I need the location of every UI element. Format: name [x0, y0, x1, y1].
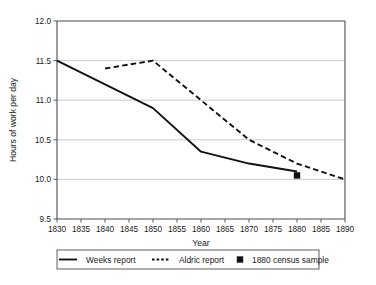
y-tick-label: 10.0 [35, 175, 51, 184]
x-axis-title: Year [192, 238, 210, 248]
x-tick-label: 1890 [336, 225, 355, 234]
legend-label-aldric-report: Aldric report [179, 255, 225, 265]
y-tick-label: 10.5 [35, 136, 51, 145]
x-tick-label: 1845 [120, 225, 139, 234]
y-tick-label: 11.0 [36, 96, 52, 105]
x-tick-label: 1830 [48, 225, 67, 234]
x-tick-label: 1835 [72, 225, 91, 234]
chart-container: 9.510.010.511.011.512.0 1830183518401845… [0, 0, 376, 285]
x-tick-label: 1880 [288, 225, 307, 234]
legend-swatch-census-sample [237, 256, 243, 262]
legend-label-1880-census-sample: 1880 census sample [252, 255, 329, 265]
y-tick-label: 11.5 [36, 57, 52, 66]
x-tick-label: 1865 [216, 225, 235, 234]
x-tick-label: 1855 [168, 225, 187, 234]
x-tick-label: 1870 [240, 225, 259, 234]
x-tick-label: 1875 [264, 225, 283, 234]
x-tick-label: 1840 [96, 225, 115, 234]
y-tick-label: 9.5 [40, 215, 52, 224]
x-tick-label: 1850 [144, 225, 163, 234]
legend-label-weeks-report: Weeks report [86, 255, 136, 265]
y-axis-title: Hours of work per day [8, 77, 18, 162]
x-tick-label: 1885 [312, 225, 331, 234]
y-tick-label: 12.0 [35, 17, 51, 26]
line-chart: 9.510.010.511.011.512.0 1830183518401845… [0, 0, 376, 285]
chart-legend: Weeks reportAldric report1880 census sam… [57, 250, 329, 269]
census-sample-marker [294, 172, 300, 178]
chart-background [0, 0, 376, 285]
x-tick-label: 1860 [192, 225, 211, 234]
